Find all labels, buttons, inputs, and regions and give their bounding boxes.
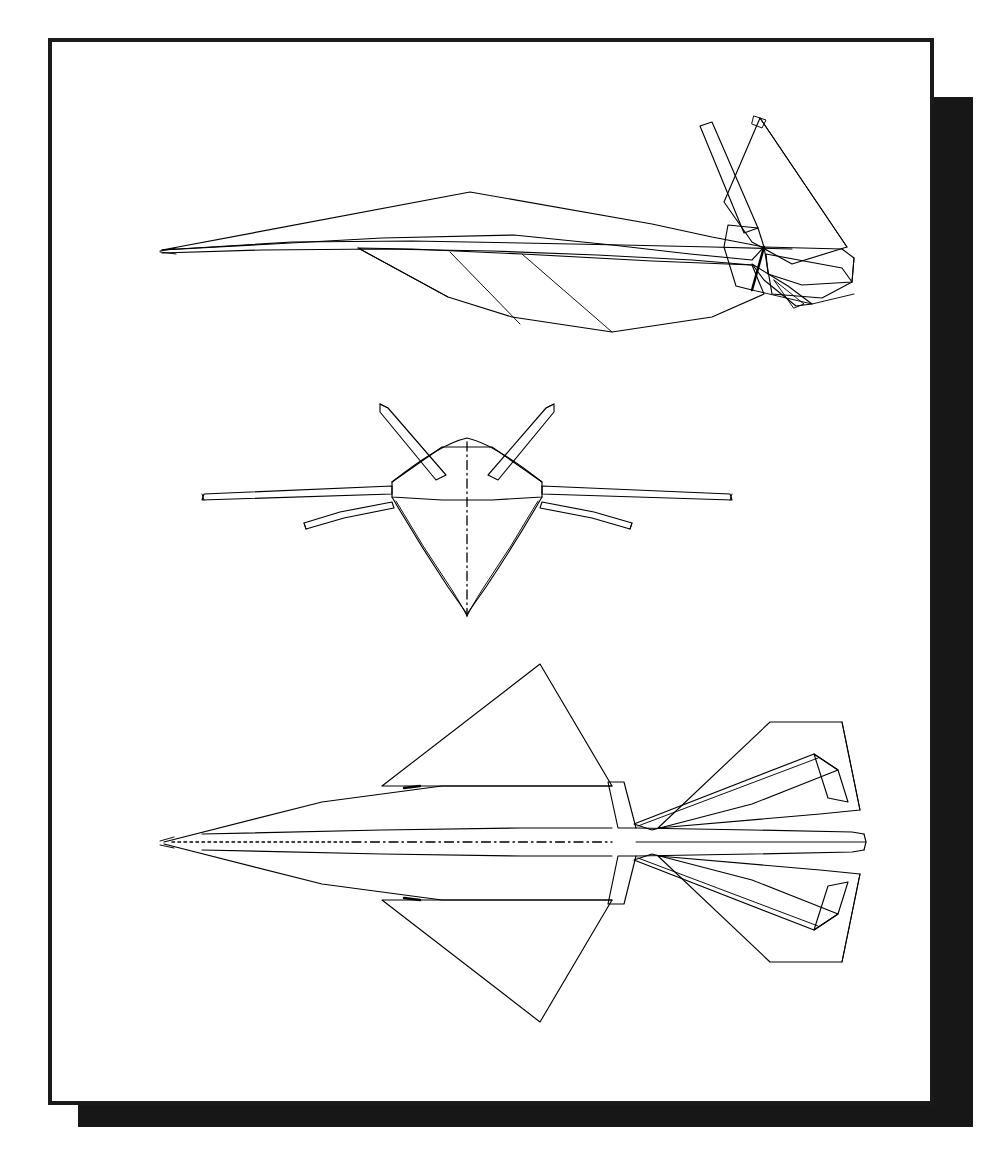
front-port-tail-tip-cap — [304, 523, 306, 529]
perspective-aft-end-cap — [852, 258, 854, 282]
perspective-lower-panel-break-a — [358, 248, 448, 297]
front-starboard-horizontal-tail — [540, 502, 632, 529]
screenshot-root — [0, 0, 995, 1163]
front-port-fin-tip — [380, 404, 388, 408]
drawing-page — [48, 38, 934, 1105]
front-starboard-vertical-fin — [488, 404, 554, 480]
front-starboard-wing — [542, 486, 732, 500]
perspective-far-fin-tip-cap — [752, 116, 766, 128]
plan-port-delta-wing — [382, 664, 612, 786]
plan-starboard-tail-hinge — [638, 858, 818, 926]
plan-port-horizontal-tail — [634, 754, 838, 830]
plan-fuselage-spine-starboard — [202, 850, 612, 856]
perspective-near-vertical-fin — [700, 122, 758, 233]
perspective-fuselage-upper-chine — [162, 241, 792, 250]
front-starboard-tail-tip-cap — [630, 523, 632, 529]
plan-starboard-horizontal-tail — [634, 854, 838, 930]
plan-starboard-fin-tip-cap — [842, 874, 860, 962]
plan-aft-fuselage-starboard-edge — [636, 850, 864, 856]
plan-forward-chine-starboard — [164, 844, 612, 900]
plan-port-wing-root-box — [608, 782, 636, 828]
front-port-horizontal-tail — [304, 502, 394, 529]
plan-port-tail-hinge — [638, 758, 818, 826]
plan-view — [160, 664, 866, 1022]
front-starboard-fin-tip — [546, 404, 554, 408]
front-port-wing — [202, 486, 392, 500]
plan-starboard-delta-wing — [382, 900, 612, 1022]
plan-fuselage-spine-port — [202, 828, 612, 834]
plan-starboard-wing-root-box — [608, 856, 636, 904]
perspective-far-fin-trailing-edge — [760, 118, 847, 247]
plan-port-fin-tip-cap — [842, 722, 860, 810]
front-view — [202, 404, 732, 616]
plan-aft-fuselage-port-edge — [636, 828, 864, 834]
three-view-drawing — [52, 42, 938, 1109]
front-port-vertical-fin — [380, 404, 446, 480]
perspective-view — [160, 116, 854, 332]
perspective-lower-panel-break-b — [450, 252, 520, 324]
